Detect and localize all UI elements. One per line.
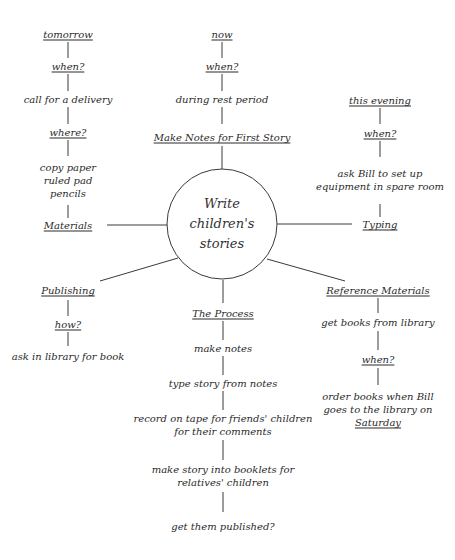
process-step-line: relatives' children [152,476,295,489]
materials-when: when? [52,60,85,73]
reference-get-books: get books from library [321,316,434,329]
process-title: The Process [192,307,254,320]
process-step-line: record on tape for friends' children [134,412,313,425]
materials-call-delivery: call for a delivery [24,93,113,106]
publishing-ask-library: ask in library for book [12,350,124,363]
materials-items: copy paper ruled pad pencils [40,161,96,200]
reference-title: Reference Materials [326,284,429,297]
process-step: get them published? [171,520,274,533]
publishing-connector [100,258,178,281]
reference-detail: order books when Bill goes to the librar… [322,390,433,429]
typing-title: Typing [363,218,398,231]
materials-item: pencils [40,187,96,200]
publishing-title: Publishing [41,284,95,297]
reference-detail-saturday: Saturday [322,416,433,429]
central-topic-line: Write [190,194,255,214]
process-step: record on tape for friends' children for… [134,412,313,438]
process-step-line: make story into booklets for [152,463,295,476]
first-story-now: now [211,28,232,41]
mind-map: Write children's stories tomorrow when? … [0,0,455,560]
reference-connector [267,259,345,281]
typing-detail-line: equipment in spare room [316,180,444,193]
materials-item: copy paper [40,161,96,174]
reference-when: when? [362,353,395,366]
materials-title: Materials [44,219,92,232]
first-story-rest-period: during rest period [176,93,269,106]
typing-this-evening: this evening [349,94,411,107]
first-story-when: when? [206,60,239,73]
process-step: make notes [194,342,252,355]
first-story-title: Make Notes for First Story [154,131,291,144]
process-step: make story into booklets for relatives' … [152,463,295,489]
materials-item: ruled pad [40,174,96,187]
central-topic-line: stories [190,234,255,254]
materials-where: where? [50,126,87,139]
publishing-how: how? [55,318,81,331]
reference-detail-line: order books when Bill [322,390,433,403]
typing-when: when? [364,127,397,140]
central-topic-line: children's [190,214,255,234]
materials-tomorrow: tomorrow [43,28,93,41]
reference-detail-line: goes to the library on [322,403,433,416]
process-step-line: for their comments [134,425,313,438]
typing-detail-line: ask Bill to set up [316,167,444,180]
central-topic: Write children's stories [190,194,255,254]
typing-detail: ask Bill to set up equipment in spare ro… [316,167,444,193]
process-step: type story from notes [169,377,278,390]
